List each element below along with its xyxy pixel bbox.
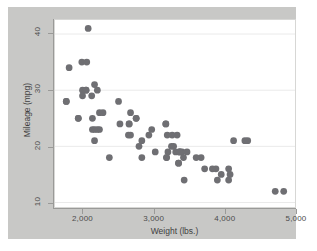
data-point	[180, 154, 187, 161]
data-point	[127, 109, 134, 116]
data-point	[193, 154, 200, 161]
data-point	[230, 137, 237, 144]
data-point	[242, 137, 249, 144]
data-point	[184, 149, 191, 156]
data-point	[117, 121, 124, 128]
data-point	[127, 132, 134, 139]
data-point	[63, 98, 70, 105]
data-point	[227, 171, 234, 178]
data-point	[88, 92, 95, 99]
data-point	[106, 154, 113, 161]
data-point	[66, 64, 73, 71]
y-tick-mark	[48, 90, 53, 91]
data-point	[225, 165, 232, 172]
y-tick-label: 40	[33, 25, 42, 39]
data-point	[169, 132, 176, 139]
data-point	[89, 115, 96, 122]
y-axis-line	[53, 19, 54, 209]
data-point	[126, 121, 133, 128]
data-point	[176, 149, 183, 156]
graph-region: 10203040 2,0003,0004,0005,000 Mileage (m…	[8, 7, 296, 239]
data-point	[79, 92, 86, 99]
data-point	[91, 81, 98, 88]
y-tick-mark	[48, 203, 53, 204]
data-point	[83, 87, 90, 94]
data-point	[75, 115, 82, 122]
x-tick-label: 3,000	[143, 214, 164, 223]
data-point	[85, 25, 92, 32]
data-point	[201, 165, 208, 172]
data-point	[148, 126, 155, 133]
data-point	[138, 154, 145, 161]
plot-canvas	[55, 20, 295, 207]
data-point	[115, 98, 122, 105]
data-point	[209, 165, 216, 172]
x-axis-line	[53, 208, 296, 209]
data-points	[63, 25, 287, 195]
y-tick-label: 10	[33, 195, 42, 209]
data-point	[165, 149, 172, 156]
y-tick-mark	[48, 33, 53, 34]
data-point	[175, 160, 182, 167]
data-point	[225, 177, 232, 184]
y-tick-label: 30	[33, 81, 42, 95]
y-axis-title: Mileage (mpg)	[22, 50, 32, 170]
data-point	[91, 126, 98, 133]
y-tick-mark	[48, 147, 53, 148]
x-tick-label: 2,000	[72, 214, 93, 223]
data-point	[91, 137, 98, 144]
data-point	[163, 154, 170, 161]
data-point	[218, 171, 225, 178]
data-point	[214, 177, 221, 184]
data-point	[152, 149, 159, 156]
data-point	[181, 177, 188, 184]
x-tick-label: 4,000	[214, 214, 235, 223]
data-point	[272, 188, 279, 195]
data-point	[280, 188, 287, 195]
data-point	[136, 143, 143, 150]
data-point	[100, 109, 107, 116]
x-axis-title: Weight (lbs.)	[53, 226, 296, 236]
scatter-plot-figure: 10203040 2,0003,0004,0005,000 Mileage (m…	[0, 0, 317, 251]
y-tick-label: 20	[33, 138, 42, 152]
data-point	[83, 59, 90, 66]
data-point	[133, 115, 140, 122]
data-point	[162, 121, 169, 128]
x-tick-label: 5,000	[285, 214, 306, 223]
plot-region	[54, 19, 296, 208]
